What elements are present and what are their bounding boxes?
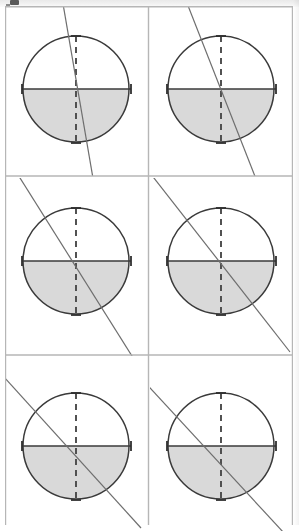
- scan-edge-shadow: [293, 0, 299, 525]
- panel-row1-col1: [5, 6, 148, 176]
- panel-row3-col1: [5, 358, 148, 531]
- cropped-glyph-artifact: [10, 0, 19, 5]
- figure-grid: [5, 6, 293, 525]
- panel-row2-col2: [150, 178, 293, 356]
- panel-row1-col2: [150, 6, 293, 176]
- panel-row3-col2: [150, 358, 293, 531]
- secant-line: [143, 164, 290, 352]
- panel-row2-col1: [5, 178, 148, 356]
